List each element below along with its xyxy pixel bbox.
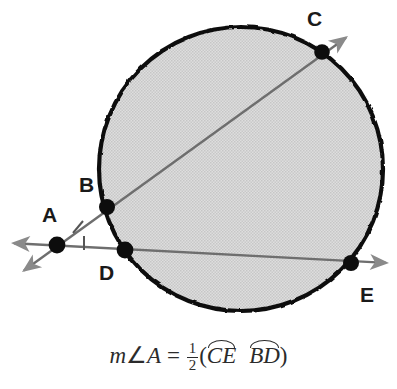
circle-interior <box>100 28 382 310</box>
point-dot-A <box>49 237 66 254</box>
arrowhead-upper-right <box>328 30 353 54</box>
point-dot-C <box>314 44 330 60</box>
arc-term-CE: CE <box>207 341 236 369</box>
arc-overbar-icon <box>250 340 279 348</box>
point-label-C: C <box>307 8 322 29</box>
point-dot-D <box>117 242 134 259</box>
formula-measure-prefix: m <box>109 343 126 368</box>
fraction-numerator: 1 <box>187 341 199 357</box>
point-label-A: A <box>42 204 57 225</box>
arc-overbar-icon <box>208 340 235 348</box>
geometry-figure <box>0 0 397 389</box>
formula-equals: = <box>167 343 180 368</box>
point-label-E: E <box>360 284 374 305</box>
angle-symbol-icon: ∠ <box>126 343 147 368</box>
formula-open-paren: ( <box>199 343 207 368</box>
point-dot-B <box>99 199 115 215</box>
point-dot-E <box>343 255 359 271</box>
fraction-denominator: 2 <box>187 357 199 374</box>
formula-caption: m∠A = 12(CEBD) <box>0 341 397 374</box>
formula-vertex: A <box>147 343 161 368</box>
arrowhead-lower-left <box>17 254 42 278</box>
formula-close-paren: ) <box>280 343 288 368</box>
point-label-D: D <box>99 262 114 283</box>
point-label-B: B <box>79 174 94 195</box>
formula-one-half: 12 <box>187 341 199 374</box>
arc-term-BD: BD <box>249 341 280 369</box>
